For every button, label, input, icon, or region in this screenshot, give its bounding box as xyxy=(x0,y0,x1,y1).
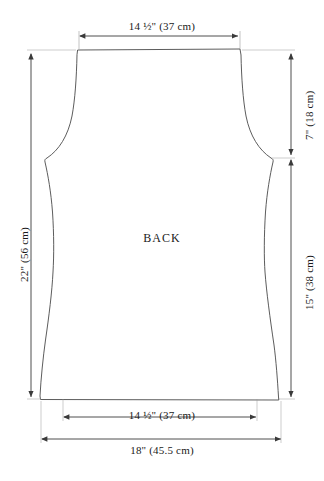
pattern-piece-label: BACK xyxy=(0,231,324,246)
top-width-label: 14 ½" (37 cm) xyxy=(0,20,324,32)
right-upper-height-label: 7" (18 cm) xyxy=(303,91,315,140)
garment-outline xyxy=(40,49,279,400)
right-lower-height-label: 15" (38 cm) xyxy=(303,255,315,310)
pattern-diagram: 14 ½" (37 cm) 22" (56 cm) 7" (18 cm) 15"… xyxy=(0,0,324,481)
bottom-total-width-label: 18" (45.5 cm) xyxy=(0,444,324,456)
bottom-hip-width-label: 14 ½" (37 cm) xyxy=(0,409,324,421)
